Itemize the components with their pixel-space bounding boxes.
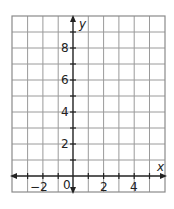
origin-label: 0 bbox=[63, 178, 71, 192]
y-tick-label-2: 2 bbox=[61, 137, 69, 151]
x-axis bbox=[10, 173, 167, 179]
y-axis-label: y bbox=[78, 17, 87, 31]
vertical-grid-lines bbox=[28, 16, 150, 192]
y-tick-label-6: 6 bbox=[61, 73, 69, 87]
coordinate-plane: y x 8 6 4 2 −2 0 2 4 bbox=[0, 0, 174, 209]
x-axis-label: x bbox=[156, 160, 165, 174]
y-axis bbox=[70, 15, 76, 194]
y-tick-label-4: 4 bbox=[61, 105, 69, 119]
y-tick-label-8: 8 bbox=[61, 41, 69, 55]
x-tick-label-neg2: −2 bbox=[30, 180, 48, 194]
y-axis-down-arrow-icon bbox=[70, 187, 76, 194]
x-tick-label-2: 2 bbox=[100, 180, 108, 194]
x-axis-left-arrow-icon bbox=[10, 173, 17, 179]
x-tick-label-4: 4 bbox=[130, 180, 138, 194]
